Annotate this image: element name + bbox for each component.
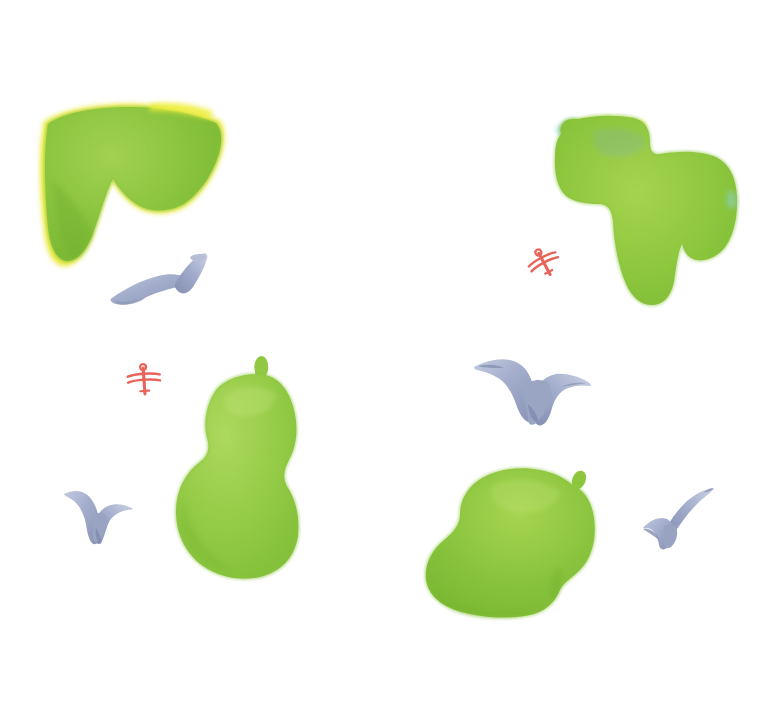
dragonfly-left <box>127 363 161 395</box>
dragonflies-layer <box>0 0 773 714</box>
dragonfly-right <box>524 243 564 282</box>
illustration-canvas: Watercolor Gourds, Gulls and Dragonflies… <box>0 0 773 714</box>
